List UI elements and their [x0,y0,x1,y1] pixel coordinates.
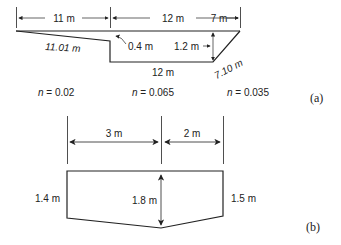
dimension-7m-layer: 7 m [0,0,341,245]
width-label-right: 7 m [211,13,228,24]
